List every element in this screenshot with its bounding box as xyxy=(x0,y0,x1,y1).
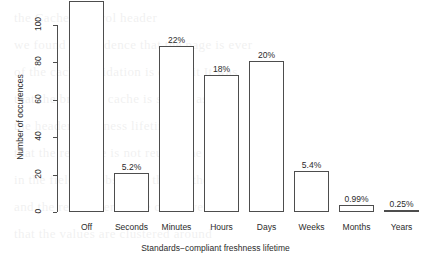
bar xyxy=(249,61,284,212)
y-tick xyxy=(53,100,57,101)
bar-chart-figure: 020406080100Number of occurences28%Off5.… xyxy=(0,0,431,268)
x-tick-label: Years xyxy=(372,222,431,232)
bar xyxy=(69,1,104,212)
bar xyxy=(114,173,149,212)
y-tick-label: 20 xyxy=(33,162,43,185)
x-axis-title: Standards−compliant freshness lifetime xyxy=(0,243,431,253)
plot-area: 020406080100Number of occurences28%Off5.… xyxy=(0,0,431,268)
bar-value-label: 5.2% xyxy=(102,162,162,172)
bar-value-label: 0.25% xyxy=(372,199,431,209)
y-tick xyxy=(53,212,57,213)
bar xyxy=(204,75,239,212)
bar-value-label: 5.4% xyxy=(282,160,342,170)
y-tick-label: 40 xyxy=(33,125,43,148)
y-tick-label: 80 xyxy=(33,50,43,73)
y-tick-label: 0 xyxy=(33,200,43,223)
y-tick xyxy=(53,137,57,138)
bar xyxy=(294,171,329,212)
bar xyxy=(159,46,194,212)
y-tick xyxy=(53,175,57,176)
y-tick xyxy=(53,62,57,63)
bar-value-label: 18% xyxy=(192,64,252,74)
y-axis-title: Number of occurences xyxy=(15,65,25,169)
bar-value-label: 22% xyxy=(147,35,207,45)
bar xyxy=(384,210,419,212)
bar-value-label: 20% xyxy=(237,50,297,60)
y-tick xyxy=(53,25,57,26)
y-tick-label: 100 xyxy=(33,13,43,36)
bar xyxy=(339,205,374,212)
y-axis-line xyxy=(57,25,58,212)
y-tick-label: 60 xyxy=(33,87,43,110)
